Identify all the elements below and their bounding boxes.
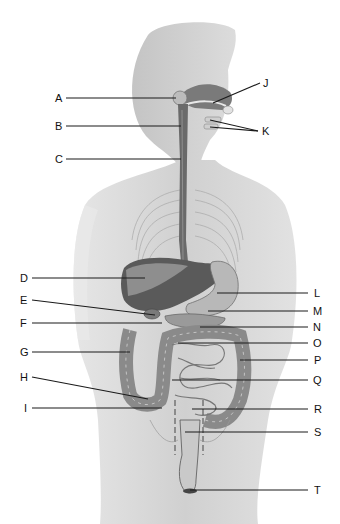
label-L: L xyxy=(314,287,320,299)
label-G: G xyxy=(20,346,29,358)
label-F: F xyxy=(20,317,27,329)
label-A: A xyxy=(55,92,63,104)
label-B: B xyxy=(55,120,62,132)
digestive-system-diagram: A B C J K D E F G H I L M N O P Q R S T xyxy=(0,0,340,524)
label-E: E xyxy=(20,294,27,306)
label-C: C xyxy=(55,153,63,165)
label-T: T xyxy=(314,484,321,496)
label-H: H xyxy=(20,371,28,383)
label-K: K xyxy=(262,125,270,137)
label-O: O xyxy=(313,337,322,349)
label-D: D xyxy=(20,272,28,284)
label-I: I xyxy=(24,402,27,414)
anus xyxy=(183,489,197,494)
label-N: N xyxy=(313,321,321,333)
label-P: P xyxy=(314,354,321,366)
label-R: R xyxy=(314,403,322,415)
label-Q: Q xyxy=(313,374,322,386)
label-J: J xyxy=(263,77,269,89)
label-M: M xyxy=(313,305,322,317)
label-S: S xyxy=(314,426,321,438)
